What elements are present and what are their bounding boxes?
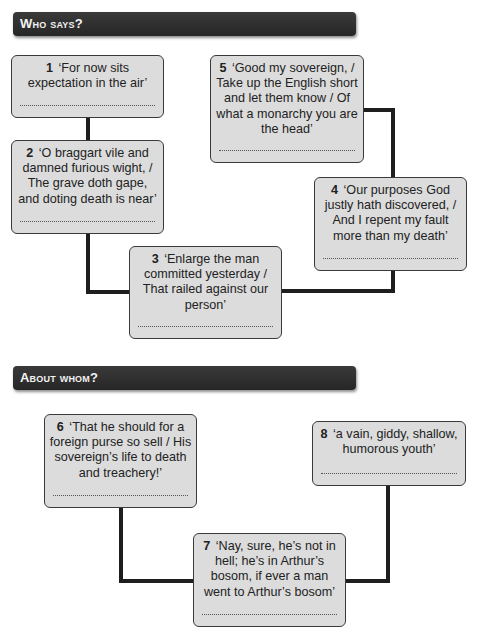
quote-box-2: 2 ‘O braggart vile and damned furious wi… [11, 140, 164, 234]
quote-text: ‘Enlarge the man committed yesterday / T… [143, 252, 268, 312]
quote-text: ‘Our purposes God justly hath discovered… [325, 183, 457, 243]
connector-2-3-vertical [86, 232, 90, 294]
quote-box-6: 6 ‘That he should for a foreign purse so… [44, 414, 197, 508]
section-title-about-whom: About whom? [13, 366, 356, 390]
quote-box-4: 4 ‘Our purposes God justly hath discover… [314, 177, 467, 271]
answer-line-7[interactable] [202, 614, 337, 615]
quote-number: 2 [26, 146, 33, 160]
connector-3-4-horizontal [281, 289, 395, 293]
quote-box-1: 1 ‘For now sits expectation in the air’ [11, 55, 164, 118]
quote-text: ‘Good my sovereign, / Take up the Englis… [216, 61, 357, 136]
answer-line-5[interactable] [219, 150, 355, 151]
quote-box-5: 5 ‘Good my sovereign, / Take up the Engl… [210, 55, 364, 163]
answer-line-1[interactable] [20, 105, 155, 106]
quote-text: ‘That he should for a foreign purse so s… [50, 420, 191, 480]
quote-text: ‘a vain, giddy, shallow, humorous youth’ [333, 427, 457, 456]
answer-line-3[interactable] [138, 326, 273, 327]
connector-1-2 [86, 117, 90, 141]
answer-line-2[interactable] [20, 221, 155, 222]
quote-number: 4 [331, 183, 338, 197]
connector-5-4-vertical [391, 108, 395, 178]
quote-box-7: 7 ‘Nay, sure, he’s not in hell; he’s in … [193, 533, 346, 627]
quote-number: 5 [219, 61, 226, 75]
connector-8-7-horizontal [344, 579, 390, 583]
connector-8-7-vertical [386, 484, 390, 583]
quote-number: 1 [46, 61, 53, 75]
quote-text: ‘O braggart vile and damned furious wigh… [18, 146, 156, 206]
connector-2-3-horizontal [86, 290, 130, 294]
answer-line-6[interactable] [53, 495, 188, 496]
quote-text: ‘Nay, sure, he’s not in hell; he’s in Ar… [204, 539, 336, 599]
quote-box-3: 3 ‘Enlarge the man committed yesterday /… [129, 246, 282, 339]
connector-6-7-horizontal [119, 579, 194, 583]
answer-line-4[interactable] [323, 258, 458, 259]
connector-3-4-vertical [391, 269, 395, 293]
answer-line-8[interactable] [321, 473, 457, 474]
quote-number: 6 [57, 420, 64, 434]
connector-6-7-vertical [119, 506, 123, 583]
quote-number: 8 [321, 427, 328, 441]
quote-number: 3 [152, 252, 159, 266]
quote-box-8: 8 ‘a vain, giddy, shallow, humorous yout… [312, 421, 466, 486]
section-title-who-says: Who says? [13, 12, 356, 36]
quote-number: 7 [203, 539, 210, 553]
